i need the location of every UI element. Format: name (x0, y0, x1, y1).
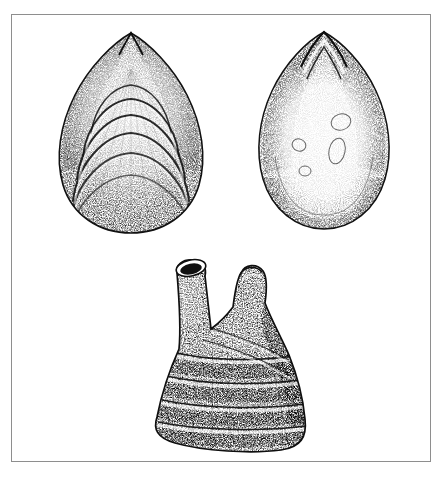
figure-exterior-valve (45, 29, 217, 237)
figure-siphonal-tube (141, 251, 321, 456)
siphonal-tube-body (141, 251, 321, 456)
interior-nacre-highlight (249, 27, 399, 237)
left-tube-highlight (179, 274, 203, 326)
exterior-valve-body (45, 29, 217, 237)
plate-frame (11, 14, 431, 462)
figure-interior-valve (249, 27, 399, 237)
illustration-plate: bivalve mollusc shell and tube stippled … (0, 0, 444, 477)
interior-valve-body (249, 27, 399, 237)
